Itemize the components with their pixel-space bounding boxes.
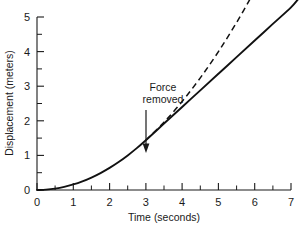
x-tick-label-5: 5 [215, 196, 221, 208]
chart-canvas: 0 1 2 3 4 5 0 1 2 3 [0, 0, 308, 229]
y-tick-label-5: 5 [24, 11, 30, 23]
y-axis-minor-ticks [37, 34, 42, 172]
force-removed-arrow-icon [143, 110, 150, 153]
annotation-line-1: Force [150, 81, 177, 93]
y-tick-label-4: 4 [24, 46, 30, 58]
x-axis-title: Time (seconds) [128, 211, 200, 223]
y-tick-label-2: 2 [24, 115, 30, 127]
y-tick-label-0: 0 [24, 184, 30, 196]
y-tick-label-1: 1 [24, 149, 30, 161]
extrapolated-parabola-dashed [146, 0, 262, 140]
y-axis-title: Displacement (meters) [3, 50, 15, 156]
y-tick-label-3: 3 [24, 80, 30, 92]
x-tick-label-3: 3 [143, 196, 149, 208]
x-tick-label-4: 4 [179, 196, 185, 208]
x-tick-label-6: 6 [252, 196, 258, 208]
x-tick-label-7: 7 [288, 196, 294, 208]
x-tick-label-0: 0 [34, 196, 40, 208]
x-tick-label-1: 1 [70, 196, 76, 208]
x-tick-label-2: 2 [107, 196, 113, 208]
x-axis-minor-ticks [55, 186, 273, 191]
displacement-vs-time-chart: 0 1 2 3 4 5 0 1 2 3 [0, 0, 308, 229]
annotation-line-2: removed [143, 93, 184, 105]
